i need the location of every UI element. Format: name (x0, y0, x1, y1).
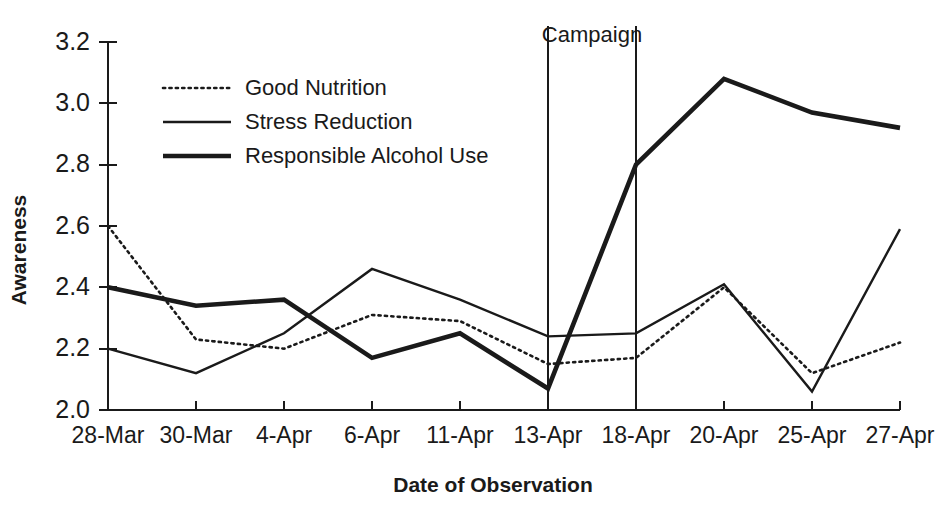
x-tick-label: 20-Apr (689, 422, 758, 448)
y-axis-title: Awareness (7, 195, 30, 306)
x-tick-label: 11-Apr (426, 422, 494, 448)
campaign-label: Campaign (542, 22, 642, 47)
awareness-line-chart: 2.02.22.42.62.83.03.2 28-Mar30-Mar4-Apr6… (0, 0, 935, 511)
x-tick-label: 28-Mar (72, 422, 145, 448)
y-tick-label: 3.2 (55, 27, 90, 55)
series-line-stress-reduction (108, 229, 900, 392)
legend-label-stress-reduction: Stress Reduction (245, 109, 413, 134)
legend-label-responsible-alcohol-use: Responsible Alcohol Use (245, 143, 488, 168)
x-tick-label: 6-Apr (344, 422, 401, 448)
x-tick-label: 13-Apr (513, 422, 582, 448)
legend-label-good-nutrition: Good Nutrition (245, 75, 387, 100)
x-tick-label: 30-Mar (160, 422, 233, 448)
campaign-annotation: Campaign (542, 22, 642, 410)
series-line-good-nutrition (108, 226, 900, 373)
x-axis-title: Date of Observation (393, 473, 593, 496)
plot-area: 2.02.22.42.62.83.03.2 28-Mar30-Mar4-Apr6… (55, 22, 935, 448)
y-tick-label: 2.0 (55, 395, 90, 423)
y-tick-label: 2.8 (55, 149, 90, 177)
y-tick-label: 2.6 (55, 211, 90, 239)
x-tick-label: 18-Apr (601, 422, 670, 448)
y-tick-label: 3.0 (55, 88, 90, 116)
x-tick-label: 4-Apr (256, 422, 313, 448)
x-axis-ticks: 28-Mar30-Mar4-Apr6-Apr11-Apr13-Apr18-Apr… (72, 401, 935, 448)
chart-legend: Good NutritionStress ReductionResponsibl… (163, 75, 488, 168)
y-tick-label: 2.4 (55, 272, 90, 300)
x-tick-label: 25-Apr (777, 422, 846, 448)
chart-canvas: 2.02.22.42.62.83.03.2 28-Mar30-Mar4-Apr6… (0, 0, 935, 511)
series-lines (108, 79, 900, 392)
y-tick-label: 2.2 (55, 333, 90, 361)
x-tick-label: 27-Apr (865, 422, 934, 448)
